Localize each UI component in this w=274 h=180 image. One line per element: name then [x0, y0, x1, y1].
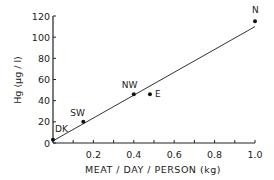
data-point-label: SW — [70, 108, 85, 118]
data-point-label: NW — [122, 80, 138, 90]
x-tick-label: 0.6 — [167, 149, 182, 160]
data-point — [132, 92, 136, 96]
y-tick-label: 80 — [38, 53, 50, 64]
data-point-label: E — [155, 89, 161, 99]
data-point — [253, 19, 257, 23]
x-axis-label: MEAT / DAY / PERSON (kg) — [85, 164, 221, 175]
x-tick-label: 0.8 — [207, 149, 222, 160]
y-tick-label: 0 — [44, 138, 50, 149]
y-tick-label: 100 — [32, 32, 50, 43]
data-point-label: DK — [55, 124, 69, 134]
x-tick-label: 0.2 — [86, 149, 101, 160]
data-points: DKSWNWEN — [51, 5, 259, 142]
data-point-label: N — [252, 5, 259, 15]
data-point — [148, 92, 152, 96]
y-tick-label: 40 — [38, 95, 50, 106]
chart-canvas: 0204060801001200.20.40.60.81.0 DKSWNWEN … — [0, 0, 274, 180]
x-tick-label: 1.0 — [247, 149, 262, 160]
y-tick-label: 120 — [32, 11, 50, 22]
y-axis-label: Hg (μg / l) — [12, 56, 23, 104]
ticks: 0204060801001200.20.40.60.81.0 — [32, 11, 263, 161]
y-tick-label: 60 — [38, 74, 50, 85]
scatter-chart: 0204060801001200.20.40.60.81.0 DKSWNWEN … — [0, 0, 274, 180]
y-tick-label: 20 — [38, 116, 50, 127]
x-tick-label: 0.4 — [126, 149, 141, 160]
data-point — [81, 120, 85, 124]
data-point — [51, 138, 55, 142]
